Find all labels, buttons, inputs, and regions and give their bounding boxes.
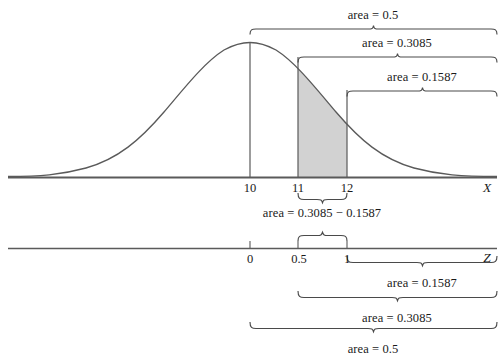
- label-area-above-01587: area = 0.1587: [387, 71, 457, 84]
- brace-above-area-03085: [298, 54, 497, 63]
- brace-below-x-axis-difference: [298, 193, 347, 203]
- z-tick-label-1: 1: [344, 253, 350, 266]
- x-tick-label-10: 10: [244, 182, 257, 195]
- z-tick-label-05: 0.5: [291, 253, 307, 266]
- x-tick-label-12: 12: [341, 182, 354, 195]
- label-area-difference: area = 0.3085 − 0.1587: [263, 207, 381, 220]
- label-area-above-05: area = 0.5: [348, 9, 399, 22]
- z-axis-label: Z: [483, 251, 491, 265]
- brace-below-z-area-03085: [298, 291, 497, 301]
- brace-above-area-01587: [347, 88, 497, 97]
- normal-distribution-diagram: area = 0.5 area = 0.3085 area = 0.1587 1…: [0, 0, 504, 364]
- shaded-area-region: [298, 40, 347, 177]
- brace-above-z-axis-span: [298, 232, 347, 241]
- label-area-below-05: area = 0.5: [348, 343, 399, 356]
- normal-curve: [8, 43, 497, 177]
- label-area-above-03085: area = 0.3085: [362, 37, 432, 50]
- x-tick-label-11: 11: [292, 182, 304, 195]
- label-area-below-01587: area = 0.1587: [387, 277, 457, 290]
- brace-above-area-05: [250, 26, 497, 35]
- label-area-below-03085: area = 0.3085: [362, 312, 432, 325]
- brace-below-z-area-01587: [347, 256, 497, 266]
- x-axis-label: X: [483, 181, 491, 195]
- z-tick-label-0: 0: [247, 253, 253, 266]
